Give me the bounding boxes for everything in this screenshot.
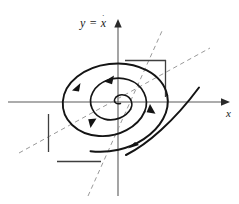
trajectory-arrow-upper-left	[72, 83, 81, 92]
x-axis-label: x	[226, 108, 231, 119]
trajectory-arrow-top-center	[104, 76, 114, 85]
y-axis-label-variable: ˙x	[101, 17, 107, 29]
overdot-glyph: ˙	[102, 14, 105, 23]
spiral-tail-outer	[91, 95, 168, 152]
phase-portrait-figure: y = ˙x x	[0, 0, 239, 204]
trajectory-arrow-right-mid	[147, 104, 156, 114]
trajectory-arrowheads-group	[72, 76, 156, 149]
phase-portrait-canvas	[0, 0, 239, 204]
dashed-lines-group	[19, 31, 210, 196]
y-axis-arrowhead	[114, 19, 121, 28]
spiral-trajectory-group	[63, 64, 199, 155]
y-axis-label-prefix: y =	[80, 16, 101, 30]
trajectory-arrow-lower-left-inner	[88, 119, 96, 129]
x-axis-arrowhead	[221, 98, 230, 106]
dashed-line-steep	[88, 31, 162, 196]
y-axis-label: y = ˙x	[80, 17, 106, 29]
axes-group	[8, 19, 230, 196]
